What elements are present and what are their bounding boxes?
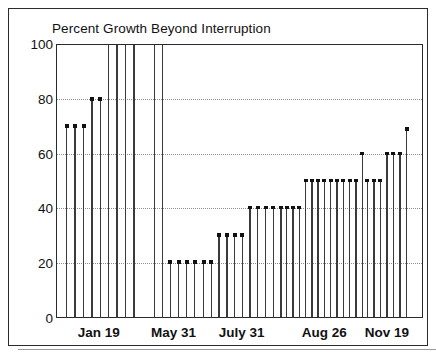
stem-marker: [365, 179, 369, 182]
stem-bar: [280, 208, 281, 317]
stem-bar: [311, 181, 312, 317]
y-axis-tick-label: 80: [38, 91, 53, 106]
stem-bar: [305, 181, 306, 317]
gridline: [57, 99, 422, 100]
stem-marker: [405, 127, 409, 130]
gridline: [57, 154, 422, 155]
stem-marker: [225, 233, 229, 236]
stem-marker: [316, 179, 320, 182]
x-axis-tick-label: Aug 26: [302, 325, 347, 340]
stem-bar: [186, 263, 187, 317]
stem-marker: [398, 152, 402, 155]
stem-bar: [343, 181, 344, 317]
stem-bar: [367, 181, 368, 317]
stem-marker: [391, 152, 395, 155]
stem-bar: [242, 235, 243, 317]
baseline-rule: [18, 349, 436, 350]
figure-frame: Percent Growth Beyond Interruption 02040…: [8, 8, 428, 346]
stem-marker: [90, 97, 94, 100]
stem-bar: [83, 127, 84, 317]
stem-marker: [271, 206, 275, 209]
stem-bar: [386, 154, 387, 317]
stem-marker: [209, 260, 213, 263]
stem-bar: [108, 45, 109, 317]
y-axis-tick-label: 60: [38, 146, 53, 161]
y-axis-tick-label: 100: [30, 37, 53, 52]
stem-bar: [292, 208, 293, 317]
stem-bar: [178, 263, 179, 317]
stem-marker: [82, 124, 86, 127]
plot-area: [56, 44, 423, 318]
stem-bar: [324, 181, 325, 317]
stem-bar: [286, 208, 287, 317]
stem-bar: [349, 181, 350, 317]
stem-bar: [91, 99, 92, 317]
stem-bar: [393, 154, 394, 317]
stem-bar: [299, 208, 300, 317]
stem-bar: [133, 45, 134, 317]
stem-bar: [100, 99, 101, 317]
stem-bar: [330, 181, 331, 317]
stem-marker: [177, 260, 181, 263]
stem-bar: [336, 181, 337, 317]
stem-bar: [265, 208, 266, 317]
stem-bar: [194, 263, 195, 317]
stem-bar: [362, 154, 363, 317]
stem-marker: [256, 206, 260, 209]
stem-bar: [249, 208, 250, 317]
stem-marker: [322, 179, 326, 182]
x-axis-tick-label: May 31: [151, 325, 196, 340]
stem-bar: [66, 127, 67, 317]
stem-marker: [65, 124, 69, 127]
stem-marker: [341, 179, 345, 182]
stem-marker: [279, 206, 283, 209]
stem-marker: [285, 206, 289, 209]
chart-title: Percent Growth Beyond Interruption: [52, 21, 271, 36]
y-axis-tick-labels: 020406080100: [17, 44, 53, 318]
y-axis-tick-label: 40: [38, 201, 53, 216]
stem-bar: [218, 235, 219, 317]
stem-bar: [373, 181, 374, 317]
stem-bar: [380, 181, 381, 317]
stem-bar: [162, 45, 163, 317]
stem-bar: [257, 208, 258, 317]
x-axis-tick-label: Nov 19: [365, 325, 409, 340]
stem-bar: [203, 263, 204, 317]
y-axis-tick-label: 20: [38, 256, 53, 271]
stem-marker: [348, 179, 352, 182]
stem-marker: [193, 260, 197, 263]
stem-marker: [304, 179, 308, 182]
stem-marker: [360, 152, 364, 155]
stem-marker: [217, 233, 221, 236]
stem-bar: [406, 129, 407, 317]
stem-marker: [98, 97, 102, 100]
stem-bar: [355, 181, 356, 317]
stem-marker: [310, 179, 314, 182]
stem-bar: [170, 263, 171, 317]
stem-marker: [335, 179, 339, 182]
stem-marker: [297, 206, 301, 209]
stem-bar: [125, 45, 126, 317]
y-axis-tick-label: 0: [45, 311, 53, 326]
stem-marker: [240, 233, 244, 236]
stem-marker: [291, 206, 295, 209]
stem-bar: [154, 45, 155, 317]
stem-marker: [202, 260, 206, 263]
stem-marker: [233, 233, 237, 236]
stem-bar: [74, 127, 75, 317]
stem-marker: [385, 152, 389, 155]
stem-marker: [185, 260, 189, 263]
x-axis-tick-labels: Jan 19May 31July 31Aug 26Nov 19: [56, 325, 423, 347]
stem-bar: [226, 235, 227, 317]
stem-marker: [354, 179, 358, 182]
stem-marker: [73, 124, 77, 127]
stem-bar: [273, 208, 274, 317]
stem-marker: [372, 179, 376, 182]
stem-bar: [116, 45, 117, 317]
x-axis-tick-label: Jan 19: [78, 325, 120, 340]
stem-marker: [329, 179, 333, 182]
stem-marker: [378, 179, 382, 182]
x-axis-tick-label: July 31: [219, 325, 265, 340]
stem-marker: [248, 206, 252, 209]
stem-bar: [211, 263, 212, 317]
